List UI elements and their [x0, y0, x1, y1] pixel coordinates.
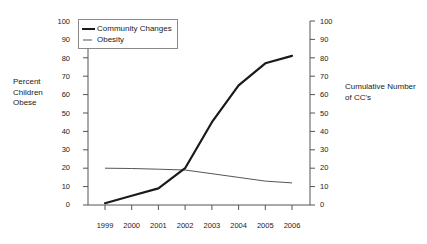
legend-item-obesity: Obesity — [82, 34, 172, 45]
thin-line-swatch — [82, 34, 95, 45]
x-axis-ticks — [105, 205, 292, 210]
thick-line-swatch — [82, 23, 95, 34]
plot-area — [0, 0, 427, 244]
y-axis-right-ticks — [310, 21, 315, 205]
series-line-obesity — [105, 168, 292, 183]
legend-label-community-changes: Community Changes — [95, 24, 172, 33]
chart-legend: Community Changes Obesity — [78, 19, 178, 49]
legend-label-obesity: Obesity — [95, 35, 124, 44]
legend-item-community-changes: Community Changes — [82, 23, 172, 34]
chart-figure: 100 90 80 70 60 50 40 30 20 10 0 100 90 … — [0, 0, 427, 244]
